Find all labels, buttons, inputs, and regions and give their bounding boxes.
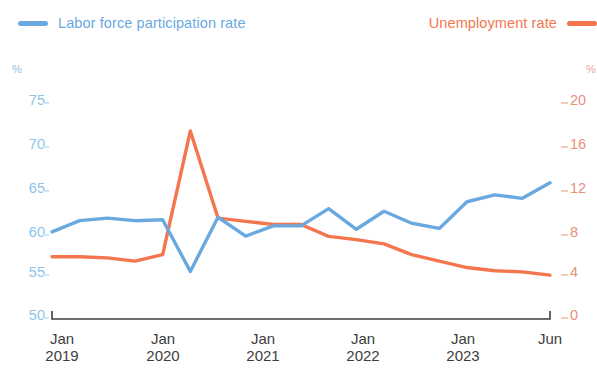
x-axis-tick-jan-2021: Jan 2021 [228, 330, 298, 364]
series-line-labor-force-participation-rate [52, 183, 550, 272]
x-tick-year: 2023 [428, 347, 498, 364]
x-tick-month: Jun [515, 330, 585, 347]
x-tick-year: 2020 [128, 347, 198, 364]
x-tick-year: 2019 [27, 347, 97, 364]
x-axis-spine [52, 311, 550, 319]
x-axis-tick-jan-2023: Jan 2023 [428, 330, 498, 364]
x-axis-tick-jan-2019: Jan 2019 [27, 330, 97, 364]
x-tick-month: Jan [428, 330, 498, 347]
x-tick-year: 2022 [328, 347, 398, 364]
x-axis-tick-jan-2022: Jan 2022 [328, 330, 398, 364]
x-tick-month: Jan [328, 330, 398, 347]
x-tick-month: Jan [27, 330, 97, 347]
x-axis-tick-jun: Jun [515, 330, 585, 347]
x-axis-tick-jan-2020: Jan 2020 [128, 330, 198, 364]
x-tick-year: 2021 [228, 347, 298, 364]
series-line-unemployment-rate [52, 131, 550, 275]
x-tick-month: Jan [228, 330, 298, 347]
x-tick-month: Jan [128, 330, 198, 347]
